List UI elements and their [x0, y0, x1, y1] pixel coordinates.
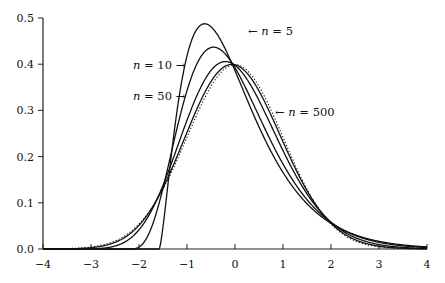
x-tick-label: 2 — [328, 258, 335, 271]
y-tick-label: 0.1 — [17, 197, 35, 210]
label-n-50: n = 50 → — [133, 89, 186, 103]
x-tick-label: 3 — [376, 258, 383, 271]
curve-n-10 — [43, 47, 427, 249]
y-tick-label: 0.0 — [17, 243, 35, 256]
x-tick-label: −1 — [179, 258, 195, 271]
chi-square-density-chart: 0.00.10.20.30.40.5−4−3−2−101234 ← n = 5n… — [0, 0, 445, 283]
y-tick-label: 0.2 — [17, 151, 35, 164]
y-tick-label: 0.4 — [17, 58, 35, 71]
y-tick-label: 0.3 — [17, 104, 35, 117]
x-tick-label: −2 — [131, 258, 147, 271]
x-tick-label: 1 — [280, 258, 287, 271]
curve-annotations: ← n = 5n = 10 →n = 50 →← n = 500 — [133, 24, 335, 119]
x-tick-label: −3 — [83, 258, 99, 271]
curve-normal — [43, 65, 427, 249]
y-tick-label: 0.5 — [17, 12, 35, 25]
x-tick-label: −4 — [35, 258, 51, 271]
x-tick-label: 4 — [424, 258, 431, 271]
label-n-10: n = 10 → — [133, 58, 186, 72]
density-curves — [43, 24, 427, 249]
curve-n-500 — [43, 64, 427, 249]
label-n-500: ← n = 500 — [275, 105, 335, 119]
curve-n-5 — [43, 24, 427, 249]
axes: 0.00.10.20.30.40.5−4−3−2−101234 — [17, 12, 431, 271]
label-n-5: ← n = 5 — [248, 24, 293, 38]
curve-n-50 — [43, 62, 427, 249]
x-tick-label: 0 — [232, 258, 239, 271]
